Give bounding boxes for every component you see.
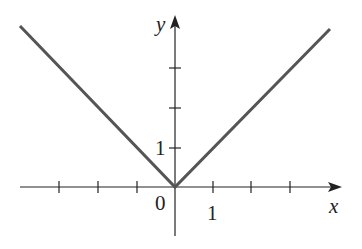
y-axis-label: y [156,14,165,35]
plot-area [0,0,362,249]
x-tick-label-1: 1 [207,203,218,224]
x-axis-label: x [329,196,338,217]
y-tick-label-1: 1 [155,138,166,159]
chart: y x 0 1 1 [0,0,362,249]
origin-label: 0 [155,193,166,214]
